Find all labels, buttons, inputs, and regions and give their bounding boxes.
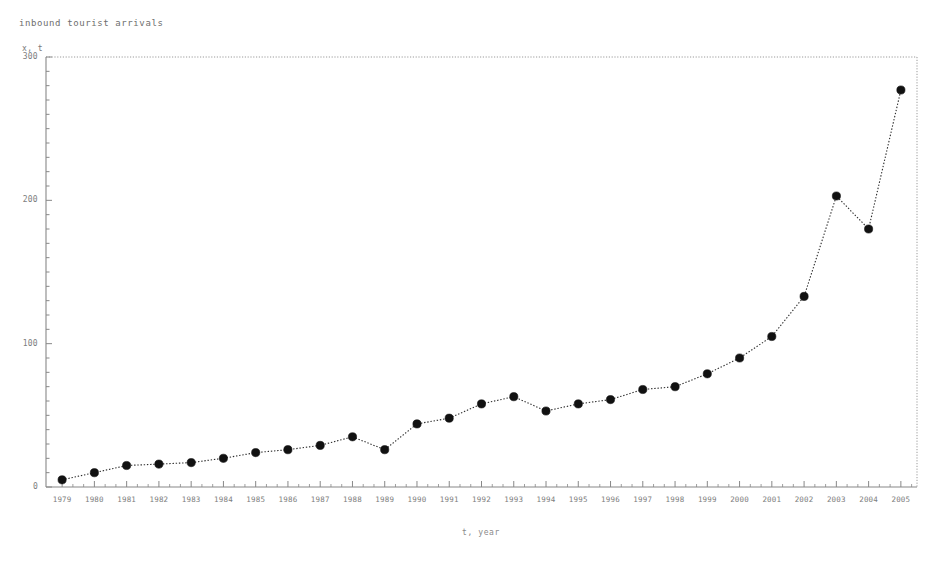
x-tick-label: 1981 bbox=[110, 495, 144, 504]
x-tick-label: 1998 bbox=[658, 495, 692, 504]
x-tick-label: 1999 bbox=[690, 495, 724, 504]
x-tick-label: 2001 bbox=[755, 495, 789, 504]
data-point bbox=[606, 396, 614, 404]
x-tick-label: 1992 bbox=[465, 495, 499, 504]
data-point bbox=[510, 393, 518, 401]
data-point bbox=[832, 192, 840, 200]
data-point bbox=[703, 370, 711, 378]
x-tick-label: 2002 bbox=[787, 495, 821, 504]
data-point bbox=[445, 414, 453, 422]
y-tick-label: 200 bbox=[4, 195, 38, 204]
x-tick-label: 1984 bbox=[206, 495, 240, 504]
data-point bbox=[768, 332, 776, 340]
y-tick-label: 0 bbox=[4, 482, 38, 491]
data-point bbox=[90, 469, 98, 477]
y-tick-marks bbox=[46, 57, 52, 487]
chart-figure: inbound tourist arrivals x, t t, year 30… bbox=[0, 0, 951, 564]
plot-frame bbox=[46, 57, 917, 487]
x-tick-label: 1980 bbox=[77, 495, 111, 504]
plot-area bbox=[0, 0, 951, 564]
data-point bbox=[413, 420, 421, 428]
x-tick-label: 1982 bbox=[142, 495, 176, 504]
x-tick-label: 1979 bbox=[45, 495, 79, 504]
data-point bbox=[574, 400, 582, 408]
x-tick-label: 1987 bbox=[303, 495, 337, 504]
x-tick-marks bbox=[62, 481, 911, 487]
data-point bbox=[639, 385, 647, 393]
data-point bbox=[800, 292, 808, 300]
x-tick-label: 1991 bbox=[432, 495, 466, 504]
x-tick-label: 1990 bbox=[400, 495, 434, 504]
data-point bbox=[865, 225, 873, 233]
data-line bbox=[62, 90, 901, 480]
data-point bbox=[736, 354, 744, 362]
data-point bbox=[219, 454, 227, 462]
data-point bbox=[252, 449, 260, 457]
data-point bbox=[155, 460, 163, 468]
data-point bbox=[284, 446, 292, 454]
data-point bbox=[58, 476, 66, 484]
x-tick-label: 1983 bbox=[174, 495, 208, 504]
x-tick-label: 1986 bbox=[271, 495, 305, 504]
data-markers bbox=[58, 86, 905, 484]
x-tick-label: 2004 bbox=[852, 495, 886, 504]
x-tick-label: 1994 bbox=[529, 495, 563, 504]
x-tick-label: 2003 bbox=[819, 495, 853, 504]
x-tick-label: 1993 bbox=[497, 495, 531, 504]
x-tick-label: 1995 bbox=[561, 495, 595, 504]
data-point bbox=[381, 446, 389, 454]
x-tick-label: 1989 bbox=[368, 495, 402, 504]
x-tick-label: 2000 bbox=[723, 495, 757, 504]
data-point bbox=[316, 441, 324, 449]
data-point bbox=[123, 461, 131, 469]
data-point bbox=[671, 383, 679, 391]
data-point bbox=[187, 459, 195, 467]
x-tick-label: 2005 bbox=[884, 495, 918, 504]
x-tick-label: 1988 bbox=[335, 495, 369, 504]
data-point bbox=[348, 433, 356, 441]
y-tick-label: 300 bbox=[4, 52, 38, 61]
data-point bbox=[897, 86, 905, 94]
x-tick-label: 1985 bbox=[239, 495, 273, 504]
x-tick-label: 1997 bbox=[626, 495, 660, 504]
x-tick-label: 1996 bbox=[594, 495, 628, 504]
data-point bbox=[542, 407, 550, 415]
data-point bbox=[477, 400, 485, 408]
y-tick-label: 100 bbox=[4, 339, 38, 348]
